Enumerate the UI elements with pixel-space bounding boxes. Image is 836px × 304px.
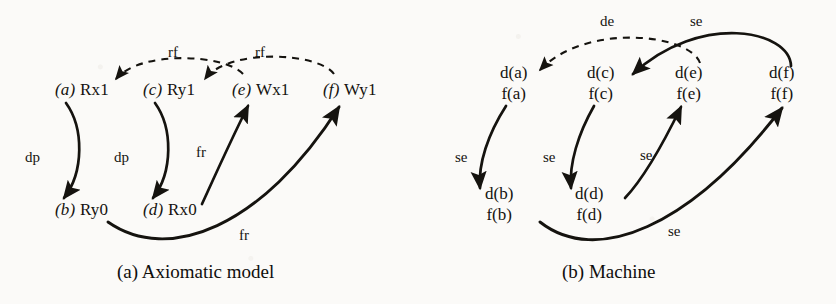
edge-fr-b-f (108, 107, 339, 239)
node-a-event: Rx1 (80, 80, 109, 99)
node-machine-f-d: d(f) (769, 62, 794, 83)
node-f: (f) Wy1 (323, 81, 377, 98)
edge-label-de-e-a: de (600, 14, 614, 29)
node-a: (a) Rx1 (55, 81, 109, 98)
edge-fr-d-e (202, 106, 248, 204)
node-b-event: Ry0 (80, 200, 108, 219)
edge-label-se-d-e: se (640, 148, 653, 163)
edge-label-se-c-d: se (543, 150, 556, 165)
node-machine-e-d: d(e) (675, 62, 702, 83)
node-machine-b-d: d(b) (485, 183, 513, 204)
node-b-tag: (b) (55, 200, 75, 219)
node-machine-d-f: f(d) (575, 204, 603, 225)
edge-label-rf-e-a: rf (168, 45, 178, 60)
node-machine-e: d(e) f(e) (675, 62, 702, 104)
node-f-tag: (f) (323, 80, 340, 99)
node-c-tag: (c) (143, 80, 162, 99)
edge-rf-f-c (205, 57, 334, 79)
node-f-event: Wy1 (344, 80, 377, 99)
node-e: (e) Wx1 (232, 81, 290, 98)
caption-panel-a: (a) Axiomatic model (117, 262, 274, 281)
node-e-event: Wx1 (256, 80, 290, 99)
node-d-tag: (d) (143, 200, 163, 219)
node-machine-d-d: d(d) (575, 183, 603, 204)
node-b: (b) Ry0 (55, 201, 108, 218)
node-machine-b-f: f(b) (485, 204, 513, 225)
edge-label-dp-c-d: dp (114, 150, 129, 165)
node-machine-f-f: f(f) (769, 83, 794, 104)
node-machine-f: d(f) f(f) (769, 62, 794, 104)
edge-label-fr-b-f: fr (239, 228, 249, 243)
node-machine-c-d: d(c) (587, 62, 614, 83)
figure-container: (a) Rx1 (c) Ry1 (e) Wx1 (f) Wy1 (b) Ry0 … (0, 0, 836, 304)
edge-se-d-e (625, 107, 681, 198)
node-machine-d: d(d) f(d) (575, 183, 603, 225)
node-machine-c-f: f(c) (587, 83, 614, 104)
node-machine-a-f: f(a) (500, 83, 527, 104)
edge-label-rf-f-c: rf (255, 45, 265, 60)
node-d-event: Rx0 (168, 200, 197, 219)
edge-label-se-f-c: se (690, 14, 703, 29)
edge-se-a-b (480, 106, 506, 188)
edge-dp-a-b (64, 103, 79, 198)
node-machine-e-f: f(e) (675, 83, 702, 104)
caption-panel-b: (b) Machine (562, 262, 655, 281)
edge-rf-e-a (116, 58, 243, 79)
edge-dp-c-d (153, 103, 168, 198)
node-e-tag: (e) (232, 80, 251, 99)
edge-label-fr-d-e: fr (196, 145, 206, 160)
node-c: (c) Ry1 (143, 81, 195, 98)
edge-label-se-b-f: se (668, 224, 681, 239)
edge-se-c-d (571, 106, 594, 188)
node-machine-a: d(a) f(a) (500, 62, 527, 104)
node-machine-b: d(b) f(b) (485, 183, 513, 225)
node-c-event: Ry1 (167, 80, 195, 99)
node-machine-a-d: d(a) (500, 62, 527, 83)
node-a-tag: (a) (55, 80, 75, 99)
edge-se-f-c (633, 33, 791, 74)
node-machine-c: d(c) f(c) (587, 62, 614, 104)
node-d: (d) Rx0 (143, 201, 197, 218)
edge-label-se-a-b: se (455, 150, 468, 165)
edge-label-dp-a-b: dp (25, 150, 40, 165)
